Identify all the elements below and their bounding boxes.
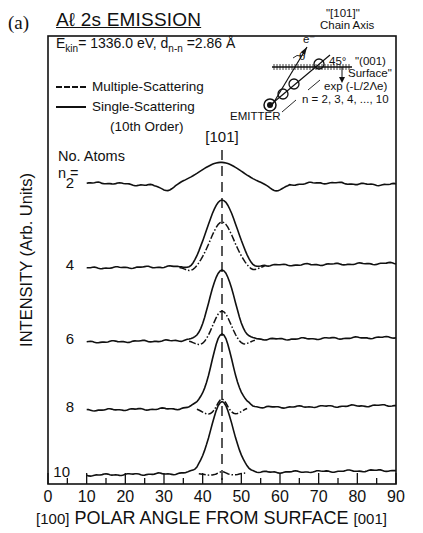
single-scattering-curve-n8 xyxy=(87,334,396,411)
inset-surface-line1: "(001) xyxy=(355,55,386,67)
n-label: 6 xyxy=(52,330,74,347)
legend-note: (10th Order) xyxy=(56,117,204,137)
legend-item-single: Single-Scattering xyxy=(56,97,204,117)
inset-electron: e⁻ xyxy=(303,32,315,46)
x-tick-label: 0 xyxy=(44,488,53,506)
dash-dot-line-icon xyxy=(56,86,86,88)
legend: Multiple-Scattering Single-Scattering (1… xyxy=(56,77,204,137)
x-axis-left-end: [100] xyxy=(36,510,69,527)
solid-line-icon xyxy=(56,106,86,108)
n-label: 8 xyxy=(52,398,74,415)
x-axis-right-end: [001] xyxy=(354,510,387,527)
inset-attenuation: exp (-L/2Λe) xyxy=(324,80,387,92)
scatterer-atom-icon xyxy=(289,79,299,89)
inset-theta: θ xyxy=(299,50,305,62)
inset-n-range: n = 2, 3, 4, ..., 10 xyxy=(302,93,389,105)
x-tick-label: 30 xyxy=(155,488,173,506)
x-tick-label: 80 xyxy=(348,488,366,506)
panel-label: (a) xyxy=(8,12,29,34)
inset-chain-axis-line2: Chain Axis xyxy=(320,19,374,31)
legend-item-multiple: Multiple-Scattering xyxy=(56,77,204,97)
chart-title: Aℓ 2s EMISSION xyxy=(56,9,201,31)
x-tick-label: 40 xyxy=(194,488,212,506)
n-label: 10 xyxy=(48,463,70,480)
n-label: 4 xyxy=(52,256,74,273)
y-axis-label: INTENSITY (Arb. Units) xyxy=(17,173,36,347)
inset-angle: 45° xyxy=(329,55,346,67)
single-scattering-curve-n2 xyxy=(87,162,396,191)
x-tick-label: 90 xyxy=(387,488,405,506)
inset-surface-line2: Surface" xyxy=(348,67,392,79)
x-tick-label: 50 xyxy=(232,488,250,506)
chart-subtitle: Ekin= 1336.0 eV, dn-n =2.86 Å xyxy=(56,35,235,54)
x-tick-label: 70 xyxy=(310,488,328,506)
x-tick-label: 60 xyxy=(271,488,289,506)
inset-chain-axis-line1: "[101]" xyxy=(326,7,360,19)
single-scattering-curve-n6 xyxy=(87,270,396,343)
n-label: 2 xyxy=(52,174,74,191)
direction-label-101: [101] xyxy=(205,128,238,145)
x-axis-label: [100] POLAR ANGLE FROM SURFACE [001] xyxy=(0,508,423,529)
single-scattering-curve-n10 xyxy=(87,402,396,477)
inset-emitter: EMITTER xyxy=(230,110,280,122)
x-tick-label: 20 xyxy=(116,488,134,506)
intensity-curves xyxy=(87,162,396,476)
single-scattering-curve-n4 xyxy=(87,200,396,269)
x-tick-label: 10 xyxy=(78,488,96,506)
